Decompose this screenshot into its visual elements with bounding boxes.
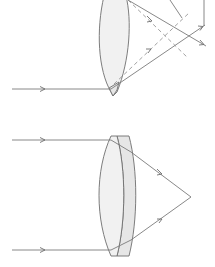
single-lens-figure (12, 0, 206, 96)
construction-line (170, 0, 182, 18)
biconvex-lens-top (99, 0, 129, 96)
refracted-ray-down (128, 0, 206, 46)
doublet-figure (12, 136, 191, 256)
crown-lens (99, 136, 124, 256)
dashed-ray-down (128, 0, 188, 58)
optics-diagram (0, 0, 215, 267)
arrow-icon (147, 16, 152, 22)
arrow-icon (146, 49, 151, 53)
